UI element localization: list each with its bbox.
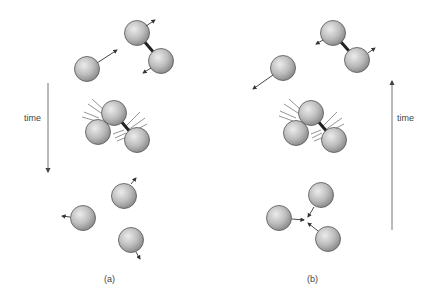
velocity-arrow — [316, 40, 323, 44]
atom-ball — [267, 206, 292, 231]
time-label: time — [397, 113, 414, 123]
atom-ball — [102, 101, 127, 126]
atom-ball — [112, 184, 137, 209]
velocity-arrow — [253, 75, 273, 89]
atom-ball — [71, 206, 96, 231]
atom-ball — [125, 128, 150, 153]
atom-ball — [309, 183, 334, 208]
atom-ball — [75, 57, 100, 82]
stage-top-b — [253, 21, 375, 90]
velocity-arrow — [308, 207, 314, 217]
atom-ball — [316, 227, 341, 252]
time-label: time — [24, 113, 41, 123]
panel-b: time (b) — [253, 21, 414, 285]
stage-before-a — [75, 20, 174, 82]
velocity-arrow — [308, 223, 318, 231]
atom-ball — [299, 101, 324, 126]
velocity-arrow — [292, 219, 304, 220]
collision-diagram: time (a) — [0, 0, 437, 299]
velocity-arrow — [136, 252, 140, 259]
stage-collision-a — [82, 99, 150, 153]
velocity-arrow — [97, 50, 117, 63]
velocity-arrow — [146, 20, 155, 26]
velocity-arrow — [62, 216, 70, 217]
atom-ball — [149, 49, 174, 74]
stage-bottom-b — [267, 183, 341, 252]
velocity-arrow — [131, 178, 136, 184]
atom-ball — [322, 128, 347, 153]
atom-ball — [119, 228, 144, 253]
atom-ball — [321, 21, 346, 46]
stage-collision-b — [279, 99, 347, 153]
panel-caption-b: (b) — [307, 274, 318, 284]
panel-caption-a: (a) — [104, 274, 115, 284]
panel-a: time (a) — [24, 20, 174, 284]
velocity-arrow — [368, 48, 375, 53]
atom-ball — [345, 48, 370, 73]
stage-after-a — [62, 178, 144, 259]
atom-ball — [271, 56, 296, 81]
atom-ball — [125, 21, 150, 46]
velocity-arrow — [143, 68, 151, 73]
